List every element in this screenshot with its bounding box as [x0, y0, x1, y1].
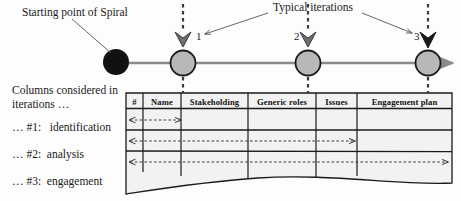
left-panel-item-analysis: … #2: analysis	[12, 148, 84, 160]
table-header-number: #	[126, 97, 143, 107]
iteration-marker-1	[171, 4, 196, 93]
left-panel-heading-line2: iterations …	[12, 98, 69, 110]
table-header-stakeholding: Stakeholding	[181, 97, 248, 107]
left-panel-item-engagement: … #3: engagement	[12, 175, 102, 187]
leader-line-typical-iterations-left	[205, 13, 268, 34]
table-header-engagement-plan: Engagement plan	[357, 97, 452, 107]
left-panel-heading-line1: Columns considered in	[12, 84, 118, 96]
spiral-start-node	[103, 49, 129, 75]
table-header-name: Name	[143, 97, 181, 107]
label-starting-point: Starting point of Spiral	[22, 6, 128, 18]
label-typical-iterations: Typical iterations	[273, 1, 353, 13]
diagram-canvas: Starting point of Spiral Typical iterati…	[0, 0, 461, 201]
leader-line-typical-iterations-right	[362, 13, 412, 33]
left-panel-item-identification: … #1: identification	[12, 121, 111, 133]
iteration-marker-3	[416, 4, 441, 93]
iteration-marker-2	[296, 4, 321, 93]
leader-line-starting-point	[72, 19, 111, 53]
iteration-number-3: 3	[414, 31, 420, 43]
table-header-generic-roles: Generic roles	[248, 97, 316, 107]
table-header-issues: Issues	[316, 97, 357, 107]
iteration-number-1: 1	[196, 31, 202, 43]
iteration-number-2: 2	[294, 31, 300, 43]
